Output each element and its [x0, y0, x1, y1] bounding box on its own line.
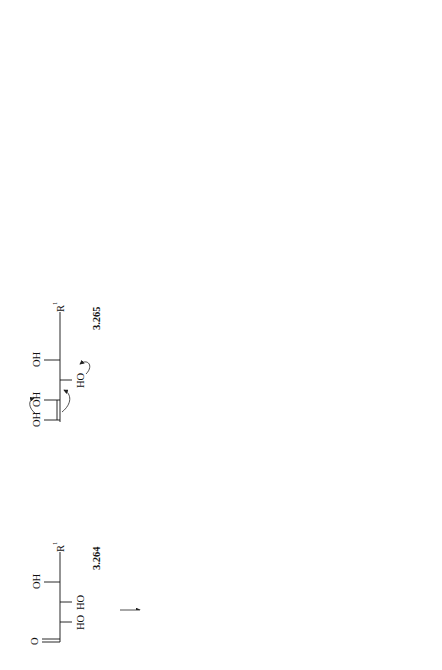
svg-text:OH: OH: [31, 351, 42, 367]
svg-text:HO: HO: [75, 594, 86, 610]
svg-text:1: 1: [51, 302, 58, 305]
svg-text:1: 1: [51, 542, 58, 545]
compound-3265: OH OH HO OH R1 3.265: [30, 302, 102, 427]
svg-text:HO: HO: [75, 614, 86, 630]
svg-text:OH: OH: [31, 573, 42, 589]
svg-text:O: O: [29, 637, 40, 645]
svg-text:R: R: [55, 545, 66, 552]
svg-text:R: R: [55, 305, 66, 312]
svg-text:3.265: 3.265: [91, 306, 102, 330]
reaction-scheme: O HO HO OH R1 3.264 OH OH HO OH R1 3.265: [0, 0, 442, 670]
svg-text:OH: OH: [31, 411, 42, 427]
svg-text:OH: OH: [31, 391, 42, 407]
compound-3264: O HO HO OH R1 3.264: [29, 542, 102, 645]
compound-id: 3.264: [91, 546, 102, 570]
svg-text:HO: HO: [75, 372, 86, 388]
